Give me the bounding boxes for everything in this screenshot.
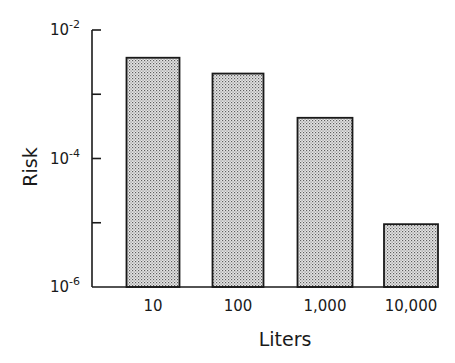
y-tick-label: 10-4 (50, 147, 80, 168)
x-axis-title: Liters (259, 328, 312, 350)
bars (127, 58, 439, 287)
bar-10 (127, 58, 180, 287)
x-tick-label: 100 (224, 297, 253, 315)
x-tick-label: 10 (143, 297, 162, 315)
y-axis-title: Risk (19, 147, 41, 186)
bar-10000 (384, 224, 438, 287)
bar-100 (213, 74, 264, 287)
x-tick-label: 10,000 (385, 297, 438, 315)
y-tick-label: 10-6 (50, 275, 80, 296)
x-tick-label: 1,000 (304, 297, 347, 315)
y-tick-label: 10-2 (50, 18, 80, 39)
bar-1000 (298, 118, 353, 287)
y-axis: 10-210-410-6 (50, 18, 101, 296)
bar-chart: 10-210-410-6 101001,00010,000 Risk Liter… (0, 0, 455, 363)
x-axis: 101001,00010,000 (92, 287, 438, 315)
